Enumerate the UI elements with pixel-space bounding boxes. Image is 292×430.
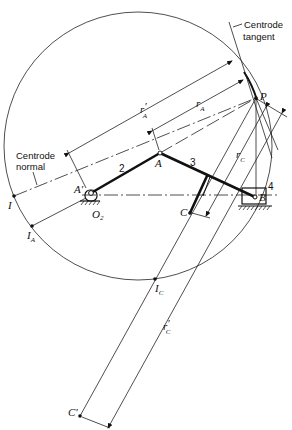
link-2 [91, 153, 160, 193]
label-a: A [154, 157, 162, 169]
label-r-c: rC [236, 148, 245, 164]
label-link-4: 4 [268, 181, 274, 192]
point-a [158, 151, 162, 155]
label-c-prime: C' [68, 406, 78, 418]
label-c: C [180, 206, 188, 218]
point-c-prime [78, 414, 82, 418]
label-r-a: rA [196, 97, 205, 113]
label-i-c: IC [154, 282, 164, 297]
centrode-normal-leader [33, 172, 37, 185]
centrode-tangent-leader [233, 24, 242, 27]
point-i-c [153, 277, 157, 281]
point-i-a [30, 224, 34, 228]
dim-r-a-prime [69, 61, 232, 153]
label-o2: O2 [92, 208, 104, 222]
label-a-prime: A' [73, 183, 84, 195]
point-i [12, 194, 16, 198]
ext-c-prime [82, 417, 110, 428]
line-p-a [160, 98, 256, 153]
label-r-c-prime: r′C [163, 317, 171, 336]
centrode-segment [244, 72, 257, 100]
label-b: B [259, 191, 266, 203]
label-link-3: 3 [190, 157, 196, 168]
centrode-tangent-label-1: Centrode [244, 19, 283, 30]
centrode-tangent-label-2: tangent [243, 31, 275, 42]
line-p-c-prime [80, 98, 256, 416]
dim-r-c [206, 107, 266, 216]
point-c [188, 211, 192, 215]
inflection-circle-diagram: Centrode tangent Centrode normal P A A' … [0, 0, 292, 430]
line-o2-ia [32, 198, 86, 226]
point-p [254, 96, 258, 100]
centrode-normal-label-1: Centrode [16, 150, 55, 161]
link-3-arm [190, 176, 207, 213]
label-r-a-prime: r′A [140, 100, 148, 120]
label-link-2: 2 [119, 163, 125, 174]
label-p: P [259, 90, 267, 102]
label-i: I [7, 199, 13, 211]
ext-a [152, 128, 159, 150]
centrode-normal-label-2: normal [16, 161, 45, 172]
